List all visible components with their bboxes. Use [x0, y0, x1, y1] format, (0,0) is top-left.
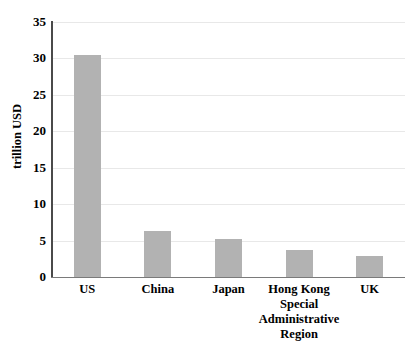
x-tick-label-line: Administrative — [259, 312, 340, 327]
x-tick-label-line: UK — [329, 282, 410, 297]
gridline — [52, 131, 405, 132]
bar — [144, 231, 171, 277]
y-tick-label: 15 — [6, 161, 46, 174]
y-tick-label: 5 — [6, 234, 46, 247]
x-tick-label-line: Special — [259, 297, 340, 312]
x-tick-label-line: Region — [259, 327, 340, 342]
gridline — [52, 168, 405, 169]
x-tick-label-line: China — [118, 282, 199, 297]
y-tick-label: 20 — [6, 124, 46, 137]
gridline — [52, 58, 405, 59]
x-tick-label: Hong KongSpecialAdministrativeRegion — [259, 282, 340, 342]
y-tick-label: 10 — [6, 197, 46, 210]
gridline — [52, 204, 405, 205]
gridline — [52, 22, 405, 23]
x-tick-label: China — [118, 282, 199, 297]
bar — [286, 250, 313, 277]
bar — [356, 256, 383, 277]
bar — [74, 55, 101, 277]
y-tick-label: 25 — [6, 88, 46, 101]
y-axis-line — [51, 21, 53, 278]
y-tick-label: 0 — [6, 270, 46, 283]
x-tick-label-line: US — [47, 282, 128, 297]
x-tick-label-line: Japan — [188, 282, 269, 297]
y-tick-label: 30 — [6, 51, 46, 64]
x-tick-label: US — [47, 282, 128, 297]
bar-chart: trillion USD 35302520151050 USChinaJapan… — [0, 0, 417, 360]
y-tick-label: 35 — [6, 15, 46, 28]
x-tick-label-line: Hong Kong — [259, 282, 340, 297]
x-tick-label: Japan — [188, 282, 269, 297]
bar — [215, 239, 242, 277]
x-tick-label: UK — [329, 282, 410, 297]
gridline — [52, 95, 405, 96]
